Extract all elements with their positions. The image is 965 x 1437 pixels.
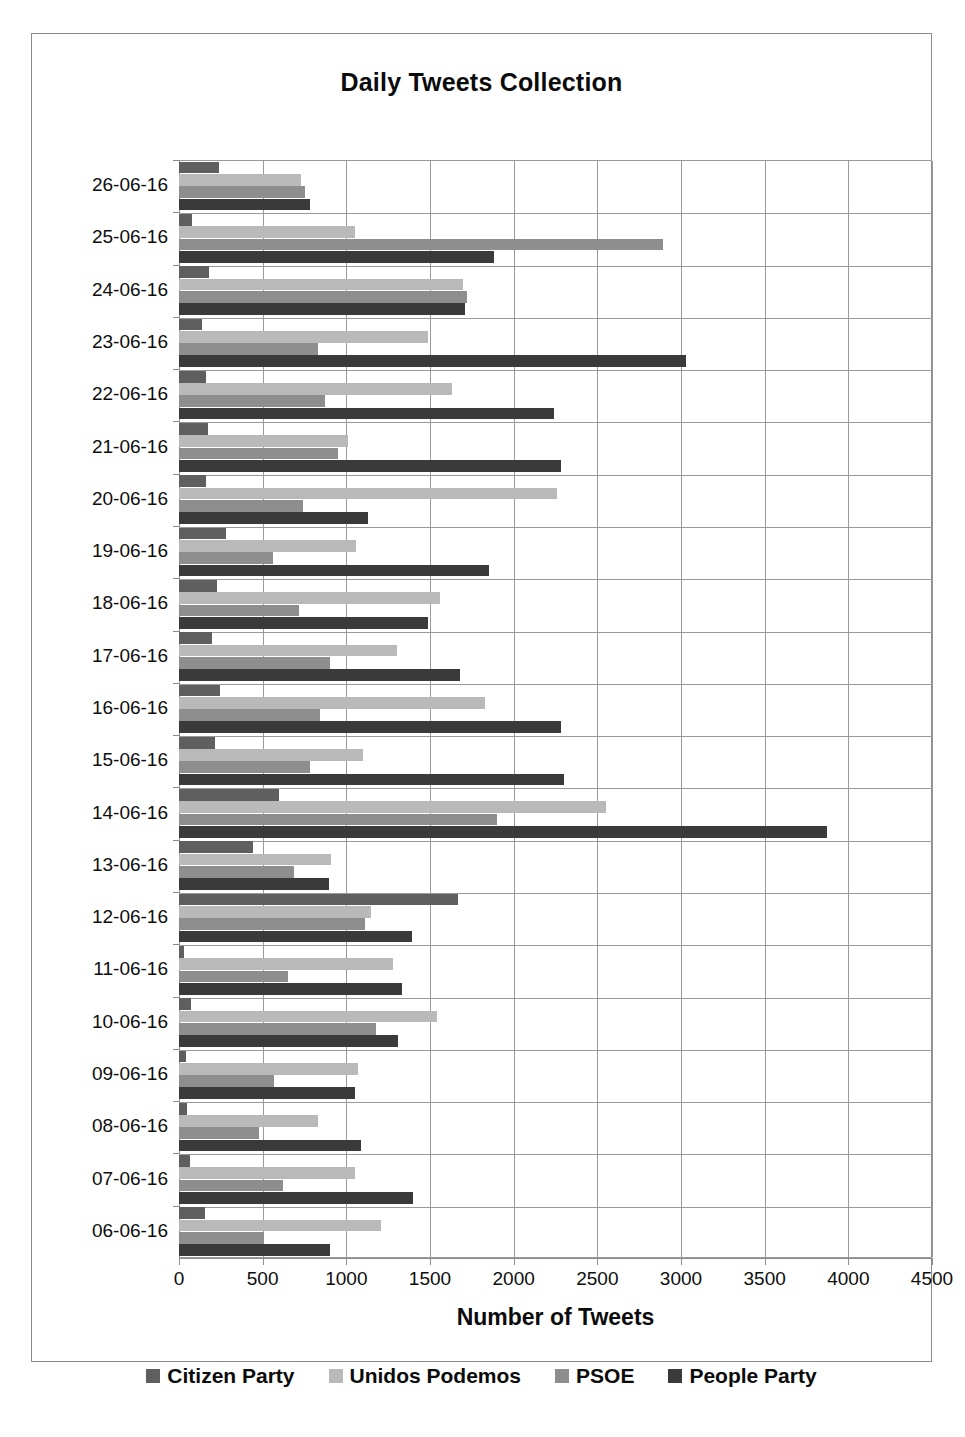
bar <box>179 1155 190 1167</box>
bar <box>179 894 458 906</box>
y-axis-tick-mark <box>173 944 179 945</box>
y-axis-tick-mark <box>173 421 179 422</box>
bar <box>179 669 460 681</box>
bar-group <box>179 998 932 1050</box>
bar <box>179 1035 398 1047</box>
bar-group <box>179 1154 932 1206</box>
x-axis-tick-label: 0 <box>174 1268 185 1290</box>
x-axis-tick-mark <box>263 1258 264 1265</box>
legend-swatch-icon <box>146 1369 160 1383</box>
x-axis-tick-label: 4000 <box>827 1268 869 1290</box>
y-axis-tick-mark <box>173 369 179 370</box>
bar <box>179 1207 205 1219</box>
bar <box>179 826 827 838</box>
bar <box>179 475 206 487</box>
bar <box>179 1075 274 1087</box>
y-axis-tick-label: 06-06-16 <box>92 1220 168 1242</box>
y-axis-tick-mark <box>173 265 179 266</box>
y-axis-tick-mark <box>173 578 179 579</box>
bar <box>179 383 452 395</box>
y-axis-tick-label: 20-06-16 <box>92 488 168 510</box>
bar-group <box>179 266 932 318</box>
bar <box>179 814 497 826</box>
x-axis-tick-label: 3500 <box>744 1268 786 1290</box>
bar <box>179 408 554 420</box>
legend-swatch-icon <box>555 1369 569 1383</box>
chart-legend: Citizen PartyUnidos PodemosPSOEPeople Pa… <box>32 1364 931 1388</box>
x-axis-tick-mark <box>932 1258 933 1265</box>
y-axis-tick-mark <box>173 526 179 527</box>
y-axis-tick-mark <box>173 840 179 841</box>
bar <box>179 355 686 367</box>
y-axis-tick-mark <box>173 892 179 893</box>
bar <box>179 319 202 331</box>
bar <box>179 617 428 629</box>
vertical-gridline <box>932 161 933 1257</box>
y-axis-tick-label: 12-06-16 <box>92 906 168 928</box>
bar-group <box>179 318 932 370</box>
x-axis-tick-label: 2500 <box>576 1268 618 1290</box>
y-axis-tick-mark <box>173 317 179 318</box>
bar <box>179 657 330 669</box>
bar-group <box>179 841 932 893</box>
x-axis-tick-label: 3000 <box>660 1268 702 1290</box>
y-axis-tick-label: 19-06-16 <box>92 540 168 562</box>
bar <box>179 971 288 983</box>
bar <box>179 303 465 315</box>
bar-group <box>179 161 932 213</box>
bar <box>179 214 192 226</box>
y-axis-tick-label: 16-06-16 <box>92 697 168 719</box>
bar <box>179 1051 186 1063</box>
bar <box>179 1220 381 1232</box>
bar-group <box>179 1207 932 1259</box>
x-axis-tick-mark <box>346 1258 347 1265</box>
x-axis-line <box>179 1258 932 1259</box>
y-axis-tick-mark <box>173 787 179 788</box>
bar <box>179 1180 283 1192</box>
legend-swatch-icon <box>329 1369 343 1383</box>
bar <box>179 761 310 773</box>
bar <box>179 251 494 263</box>
x-axis-tick-label: 1500 <box>409 1268 451 1290</box>
y-axis-tick-label: 24-06-16 <box>92 279 168 301</box>
y-axis-tick-mark <box>173 1101 179 1102</box>
bar <box>179 709 320 721</box>
bar <box>179 801 606 813</box>
y-axis-tick-label: 17-06-16 <box>92 645 168 667</box>
bar <box>179 685 220 697</box>
bar <box>179 998 191 1010</box>
bar <box>179 448 338 460</box>
y-axis-labels: 26-06-1625-06-1624-06-1623-06-1622-06-16… <box>82 160 168 1258</box>
y-axis-tick-label: 15-06-16 <box>92 749 168 771</box>
y-axis-tick-label: 25-06-16 <box>92 226 168 248</box>
bar <box>179 1167 355 1179</box>
x-axis-tick-label: 4500 <box>911 1268 953 1290</box>
plot-area <box>179 160 932 1258</box>
y-axis-tick-label: 22-06-16 <box>92 383 168 405</box>
bar <box>179 331 428 343</box>
bar <box>179 500 303 512</box>
bar <box>179 1087 355 1099</box>
bar-group <box>179 213 932 265</box>
bar <box>179 266 209 278</box>
bar <box>179 1011 437 1023</box>
y-axis-tick-mark <box>173 1049 179 1050</box>
y-axis-tick-mark <box>173 1206 179 1207</box>
bar <box>179 958 393 970</box>
bar <box>179 946 184 958</box>
legend-label: PSOE <box>576 1364 634 1388</box>
x-axis-tick-mark <box>179 1258 180 1265</box>
bar <box>179 1244 330 1256</box>
legend-item[interactable]: Unidos Podemos <box>329 1364 522 1388</box>
legend-item[interactable]: PSOE <box>555 1364 634 1388</box>
bar <box>179 1127 259 1139</box>
y-axis-tick-mark <box>173 735 179 736</box>
legend-item[interactable]: Citizen Party <box>146 1364 294 1388</box>
y-axis-tick-label: 18-06-16 <box>92 592 168 614</box>
bar <box>179 866 294 878</box>
bar <box>179 291 467 303</box>
bar-group <box>179 893 932 945</box>
bar <box>179 528 226 540</box>
legend-item[interactable]: People Party <box>668 1364 816 1388</box>
bar <box>179 226 355 238</box>
